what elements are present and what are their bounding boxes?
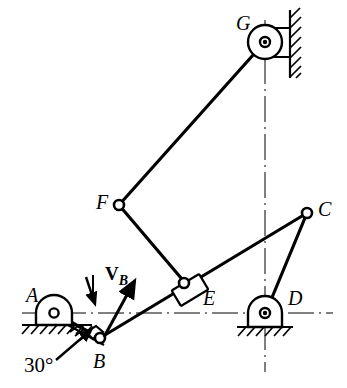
label-point-e: E: [203, 288, 215, 308]
label-point-d: D: [288, 288, 302, 308]
joint-f-pin: [114, 200, 124, 210]
velocity-subscript: B: [119, 273, 128, 288]
velocity-vector-vb: [104, 293, 128, 337]
incline-leader-arrow-head: [86, 277, 92, 295]
joint-g-pin-center: [263, 40, 267, 44]
support-g: [248, 25, 282, 59]
angle-leader-arrow: [56, 336, 84, 360]
label-point-g: G: [236, 13, 250, 33]
joint-e-pin: [179, 278, 189, 288]
joint-d-pin-center: [263, 311, 267, 315]
velocity-symbol: V: [105, 263, 119, 284]
link-F-E: [119, 205, 187, 285]
label-point-f: F: [96, 192, 108, 212]
kinematic-diagram: A B C D E F G 30° VB: [0, 0, 347, 388]
label-angle-30: 30°: [24, 355, 53, 376]
support-d: [248, 296, 282, 327]
support-a: [36, 295, 72, 325]
label-point-a: A: [26, 285, 38, 305]
wall-hatching: [290, 8, 301, 78]
label-velocity-vb: VB: [105, 264, 128, 288]
link-F-G: [119, 45, 262, 205]
diagram-canvas: [0, 0, 347, 388]
joint-c-pin: [302, 208, 312, 218]
joint-b-pin: [95, 333, 105, 343]
label-point-c: C: [318, 199, 331, 219]
label-point-b: B: [93, 351, 105, 371]
joint-a-pin: [49, 308, 58, 317]
